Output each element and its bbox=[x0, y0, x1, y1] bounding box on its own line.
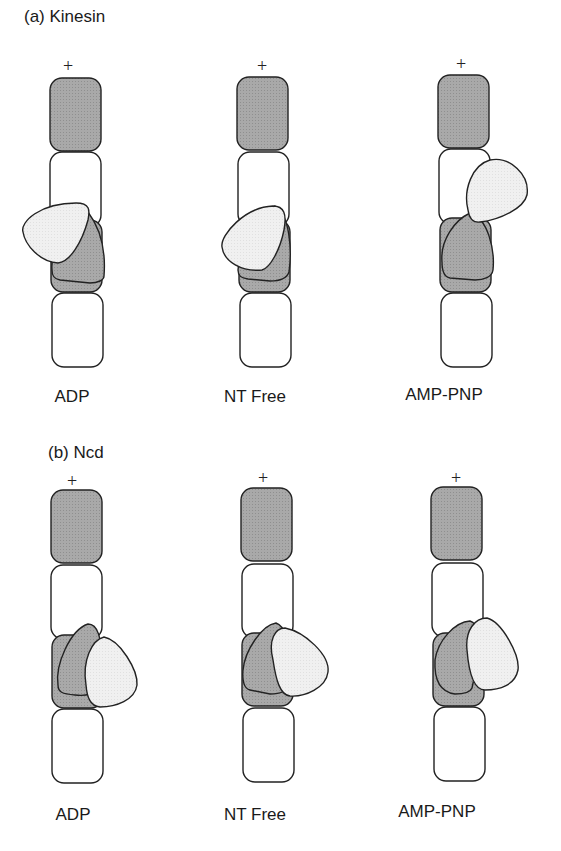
state-label-ncd-ntfree: NT Free bbox=[224, 805, 286, 825]
svg-text:+: + bbox=[258, 468, 268, 488]
svg-text:+: + bbox=[456, 54, 466, 74]
state-label-ncd-amppnp: AMP-PNP bbox=[398, 802, 475, 822]
alpha-tubulin bbox=[52, 293, 103, 367]
motor-diagram: + + + + bbox=[0, 0, 561, 851]
state-label-kinesin-ntfree: NT Free bbox=[224, 387, 286, 407]
kinesin-amppnp-protofilament: + bbox=[438, 54, 527, 367]
kinesin-ntfree-protofilament: + bbox=[222, 56, 291, 367]
state-label-ncd-adp: ADP bbox=[56, 805, 91, 825]
beta-tubulin bbox=[50, 78, 101, 151]
ncd-amppnp-protofilament: + bbox=[431, 468, 518, 781]
svg-text:+: + bbox=[451, 468, 461, 488]
svg-text:+: + bbox=[63, 56, 73, 76]
ncd-ntfree-protofilament: + bbox=[241, 468, 328, 782]
state-label-kinesin-adp: ADP bbox=[55, 387, 90, 407]
state-label-kinesin-amppnp: AMP-PNP bbox=[405, 385, 482, 405]
kinesin-adp-protofilament: + bbox=[23, 56, 105, 367]
svg-text:+: + bbox=[67, 471, 77, 491]
ncd-adp-protofilament: + bbox=[51, 471, 137, 783]
svg-text:+: + bbox=[257, 56, 267, 76]
